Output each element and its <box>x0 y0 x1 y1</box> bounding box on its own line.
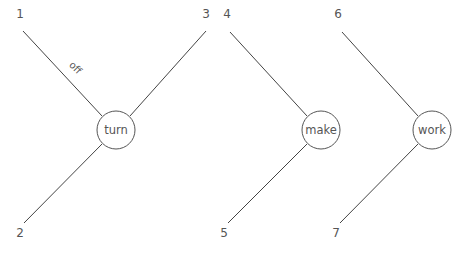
edges-group <box>23 31 418 223</box>
edge-label-off: off <box>67 59 85 77</box>
node-label: turn <box>104 123 128 137</box>
node-work: work <box>413 111 451 149</box>
leaf-label-2: 2 <box>16 226 24 240</box>
diagram-canvas: turnmakework 1234567 off <box>0 0 473 257</box>
dependency-diagram: turnmakework 1234567 off <box>0 0 473 257</box>
edge-6-work <box>342 32 418 116</box>
leaf-label-5: 5 <box>220 226 228 240</box>
leaves-group: 1234567 <box>16 7 342 240</box>
leaf-label-4: 4 <box>223 7 231 21</box>
edge-2-turn <box>24 144 102 223</box>
node-label: make <box>305 123 337 137</box>
leaf-label-6: 6 <box>334 7 342 21</box>
edge-4-make <box>230 32 307 116</box>
leaf-label-7: 7 <box>332 226 340 240</box>
leaf-label-3: 3 <box>202 7 210 21</box>
node-make: make <box>302 111 340 149</box>
edge-labels-group: off <box>67 59 85 77</box>
node-label: work <box>418 123 446 137</box>
nodes-group: turnmakework <box>97 111 451 149</box>
leaf-label-1: 1 <box>16 7 24 21</box>
node-turn: turn <box>97 111 135 149</box>
edge-1-turn <box>23 31 102 116</box>
edge-7-work <box>340 144 418 223</box>
edge-5-make <box>228 144 307 223</box>
edge-3-turn <box>130 31 206 116</box>
